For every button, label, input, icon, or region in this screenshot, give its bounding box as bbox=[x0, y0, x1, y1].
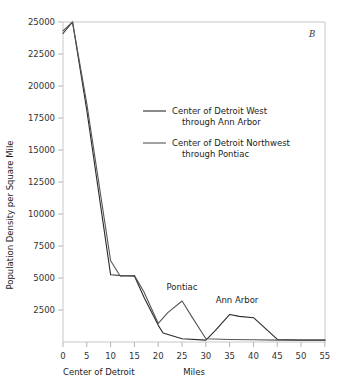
x-tick-label-40: 40 bbox=[248, 351, 259, 361]
y-tick-label-10000: 10000 bbox=[28, 209, 55, 219]
chart-figure: 25000 22500 20000 17500 15000 12500 1000… bbox=[0, 0, 339, 389]
x-tick-label-50: 50 bbox=[296, 351, 307, 361]
x-tick-label-35: 35 bbox=[224, 351, 235, 361]
data-series-group bbox=[63, 22, 325, 340]
plot-spines bbox=[63, 22, 325, 342]
y-tick-label-20000: 20000 bbox=[28, 81, 55, 91]
y-tick-label-12500: 12500 bbox=[28, 177, 55, 187]
x-axis-origin-note: Center of Detroit bbox=[63, 367, 135, 377]
y-axis-title: Population Density per Square Mile bbox=[5, 140, 15, 289]
x-tick-label-45: 45 bbox=[272, 351, 283, 361]
panel-label-b: B bbox=[308, 29, 315, 39]
x-tick-label-25: 25 bbox=[177, 351, 188, 361]
series-line-detroit-west-ann-arbor bbox=[63, 22, 325, 340]
legend-label-detroit-west-line1: Center of Detroit West bbox=[172, 106, 268, 116]
x-axis-ticks: 0 5 10 15 20 25 30 35 40 45 50 55 bbox=[60, 342, 330, 361]
x-tick-label-10: 10 bbox=[105, 351, 116, 361]
y-tick-label-7500: 7500 bbox=[33, 241, 55, 251]
y-tick-label-25000: 25000 bbox=[28, 17, 55, 27]
chart-legend: Center of Detroit West through Ann Arbor… bbox=[143, 106, 291, 159]
x-tick-label-20: 20 bbox=[153, 351, 164, 361]
series-line-detroit-northwest-pontiac bbox=[63, 22, 325, 340]
legend-label-detroit-northwest-line2: through Pontiac bbox=[182, 149, 249, 159]
x-tick-label-15: 15 bbox=[129, 351, 140, 361]
x-axis-title: Miles bbox=[183, 367, 205, 377]
y-tick-label-2500: 2500 bbox=[33, 305, 55, 315]
y-tick-label-5000: 5000 bbox=[33, 273, 55, 283]
y-axis-ticks: 25000 22500 20000 17500 15000 12500 1000… bbox=[28, 17, 63, 315]
annotation-pontiac: Pontiac bbox=[167, 282, 198, 292]
annotation-ann-arbor: Ann Arbor bbox=[216, 295, 259, 305]
population-density-line-chart: 25000 22500 20000 17500 15000 12500 1000… bbox=[0, 0, 339, 389]
legend-label-detroit-west-line2: through Ann Arbor bbox=[182, 117, 261, 127]
y-tick-label-17500: 17500 bbox=[28, 113, 55, 123]
x-tick-label-30: 30 bbox=[200, 351, 211, 361]
x-tick-label-5: 5 bbox=[84, 351, 89, 361]
x-tick-label-55: 55 bbox=[319, 351, 330, 361]
x-tick-label-0: 0 bbox=[60, 351, 65, 361]
plot-annotations: Pontiac Ann Arbor bbox=[167, 282, 259, 305]
y-tick-label-15000: 15000 bbox=[28, 145, 55, 155]
legend-label-detroit-northwest-line1: Center of Detroit Northwest bbox=[172, 138, 291, 148]
y-tick-label-22500: 22500 bbox=[28, 49, 55, 59]
